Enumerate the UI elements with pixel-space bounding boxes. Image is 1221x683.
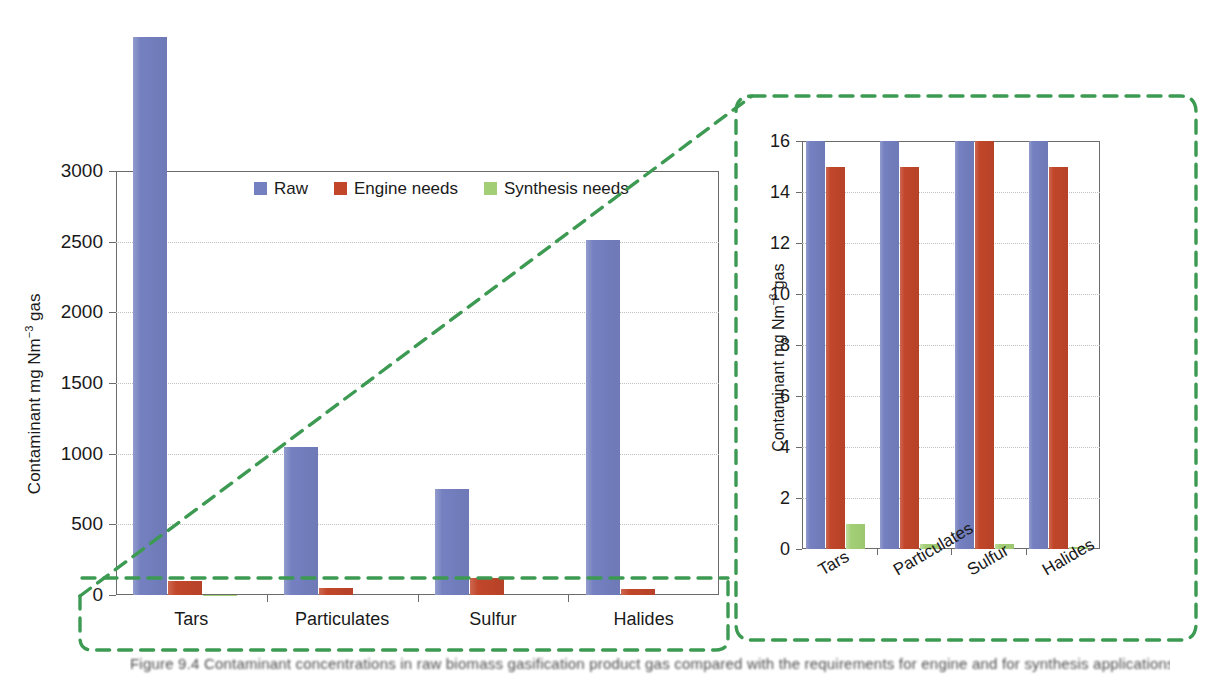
inset-bars-layer (802, 141, 1100, 549)
x-tick-label-sulfur: Sulfur (418, 609, 569, 630)
figure-caption: Figure 9.4 Contaminant concentrations in… (130, 655, 1170, 681)
y-tick-label: 14 (770, 182, 790, 203)
bar-engine-needs-sulfur (470, 578, 504, 595)
x-tick-label-tars: Tars (815, 547, 853, 580)
y-tick-label: 500 (71, 513, 103, 535)
y-tick-label: 6 (780, 386, 790, 407)
y-tick-label: 1000 (61, 443, 103, 465)
y-tick-label: 2 (780, 488, 790, 509)
bar-engine-needs-sulfur (975, 141, 994, 549)
x-tick-label-tars: Tars (116, 609, 267, 630)
y-tick-label: 16 (770, 131, 790, 152)
y-tick-label: 0 (780, 539, 790, 560)
legend-entry-synthesis: Synthesis needs (484, 180, 629, 197)
y-tick-label: 0 (92, 584, 103, 606)
legend-label-engine: Engine needs (354, 180, 458, 197)
bar-raw-halides (586, 240, 620, 595)
x-tick-label-particulates: Particulates (267, 609, 418, 630)
bar-raw-tars (806, 141, 825, 549)
bar-synthesis-needs-tars (846, 524, 865, 550)
y-tick-mark (109, 242, 116, 243)
figure-container: Contaminant mg Nm−3 gas 0500100015002000… (0, 0, 1221, 683)
bar-raw-halides (1029, 141, 1048, 549)
bar-raw-particulates (284, 447, 318, 595)
y-tick-label: 2500 (61, 231, 103, 253)
x-tick-mark (1026, 549, 1027, 555)
legend-entry-engine: Engine needs (334, 180, 458, 197)
y-tick-label: 8 (780, 335, 790, 356)
y-tick-label: 4 (780, 437, 790, 458)
y-tick-mark (109, 171, 116, 172)
figure-caption-text: Figure 9.4 Contaminant concentrations in… (130, 655, 1170, 672)
bar-engine-needs-tars (826, 167, 845, 550)
bar-raw-sulfur (435, 489, 469, 595)
y-tick-mark (109, 454, 116, 455)
y-tick-label: 12 (770, 233, 790, 254)
x-tick-mark (877, 549, 878, 555)
y-tick-mark (109, 524, 116, 525)
main-y-axis-title-text: Contaminant mg Nm (25, 338, 44, 494)
legend-swatch-engine-icon (334, 182, 347, 195)
y-tick-label: 2000 (61, 301, 103, 323)
legend-label-synthesis: Synthesis needs (504, 180, 629, 197)
x-tick-label-halides: Halides (568, 609, 719, 630)
legend-swatch-synthesis-icon (484, 182, 497, 195)
inset-bar-chart-panel: Contaminant mg Nm−3 gas 0246810121416 Ta… (740, 0, 1221, 640)
bar-raw-sulfur (955, 141, 974, 549)
bar-engine-needs-halides (1049, 167, 1068, 550)
y-tick-label: 3000 (61, 160, 103, 182)
y-tick-mark (109, 312, 116, 313)
y-tick-label: 1500 (61, 372, 103, 394)
y-tick-mark (109, 383, 116, 384)
legend-swatch-raw-icon (254, 182, 267, 195)
bar-raw-particulates (880, 141, 899, 549)
bar-engine-needs-halides (621, 589, 655, 595)
x-tick-mark (568, 595, 569, 602)
bar-engine-needs-particulates (319, 588, 353, 595)
legend-entry-raw: Raw (254, 180, 308, 197)
bar-engine-needs-tars (168, 581, 202, 595)
main-y-axis-title-exponent: −3 (23, 326, 35, 339)
main-y-axis-title-tail: gas (25, 294, 44, 326)
chart-legend: RawEngine needsSynthesis needs (246, 178, 637, 199)
inset-y-axis-title-text: Contaminant mg Nm (770, 305, 787, 452)
main-y-axis-title: Contaminant mg Nm−3 gas (23, 254, 45, 534)
y-tick-mark (796, 549, 802, 550)
main-bar-chart-panel: Contaminant mg Nm−3 gas 0500100015002000… (0, 0, 740, 640)
x-tick-mark (267, 595, 268, 602)
bar-engine-needs-particulates (900, 167, 919, 550)
main-bars-layer (116, 171, 719, 595)
x-tick-mark (418, 595, 419, 602)
y-tick-label: 10 (770, 284, 790, 305)
bar-raw-tars (133, 37, 167, 595)
legend-label-raw: Raw (274, 180, 308, 197)
y-tick-mark (109, 595, 116, 596)
